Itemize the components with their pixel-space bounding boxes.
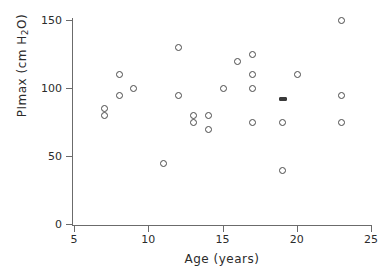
data-point	[220, 85, 227, 92]
data-point	[338, 119, 345, 126]
x-tick-mark	[371, 226, 372, 232]
data-point	[249, 51, 256, 58]
x-tick-label: 20	[282, 234, 312, 245]
data-point	[249, 119, 256, 126]
x-axis-title: Age (years)	[72, 252, 372, 266]
x-tick-mark	[223, 226, 224, 232]
y-tick-label: 0	[22, 219, 62, 230]
plot-area: 050100150 510152025 Age (years) PImax (c…	[0, 0, 392, 278]
data-point	[175, 92, 182, 99]
x-tick-label: 25	[356, 234, 386, 245]
data-point	[279, 97, 287, 101]
x-tick-label: 5	[59, 234, 89, 245]
y-tick-mark	[66, 88, 72, 89]
data-point	[338, 17, 345, 24]
data-point	[101, 105, 108, 112]
x-tick-mark	[297, 226, 298, 232]
data-point	[116, 92, 123, 99]
data-point	[338, 92, 345, 99]
y-axis-title-suffix: O)	[15, 14, 29, 29]
data-point	[175, 44, 182, 51]
data-point	[190, 119, 197, 126]
data-point	[234, 58, 241, 65]
data-point	[130, 85, 137, 92]
x-tick-label: 15	[208, 234, 238, 245]
scatter-plot-figure: 050100150 510152025 Age (years) PImax (c…	[0, 0, 392, 278]
data-point	[249, 71, 256, 78]
data-point	[205, 126, 212, 133]
data-point	[279, 119, 286, 126]
y-axis-line	[72, 18, 73, 226]
x-tick-mark	[74, 226, 75, 232]
data-point	[279, 167, 286, 174]
y-tick-mark	[66, 20, 72, 21]
data-point	[249, 85, 256, 92]
y-axis-title: PImax (cm H2O)	[15, 0, 30, 136]
y-axis-title-subscript: 2	[20, 29, 30, 35]
y-axis-title-prefix: PImax (cm H	[15, 35, 29, 117]
y-tick-mark	[66, 156, 72, 157]
data-point	[294, 71, 301, 78]
y-tick-label: 50	[22, 151, 62, 162]
x-tick-mark	[148, 226, 149, 232]
data-point	[116, 71, 123, 78]
x-tick-label: 10	[133, 234, 163, 245]
data-point	[205, 112, 212, 119]
data-point	[101, 112, 108, 119]
data-point	[160, 160, 167, 167]
y-tick-mark	[66, 224, 72, 225]
